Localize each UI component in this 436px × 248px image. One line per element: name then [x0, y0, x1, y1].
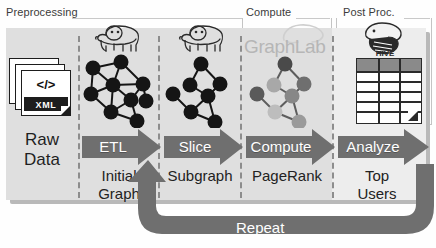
- caption-raw-data-line1: Raw: [6, 130, 78, 149]
- repeat-loop-label: Repeat: [236, 219, 284, 236]
- xml-code-glyph: </>: [22, 77, 70, 92]
- results-table-body: [356, 58, 422, 124]
- graph-subgraph-sparse: [164, 52, 236, 128]
- phase-label-preprocessing: Preprocessing: [6, 6, 78, 18]
- hadoop-elephant-logo-2: [176, 22, 228, 56]
- results-table-rule-2: [357, 91, 421, 93]
- results-table-col-rule-2: [399, 59, 401, 123]
- apache-hive-logo: HIVE: [358, 20, 408, 58]
- xml-doc-front: </> XML: [21, 70, 71, 116]
- phase-label-post-proc: Post Proc.: [343, 6, 395, 18]
- graph-pagerank-shaded: [246, 52, 320, 128]
- pipeline-diagram: Preprocessing Compute Post Proc. </> XML: [0, 0, 436, 248]
- results-table-rule-0: [357, 71, 421, 73]
- results-table-header-row: [357, 59, 421, 71]
- results-table-rule-3: [357, 101, 421, 103]
- phase-rule-preprocessing: [72, 18, 242, 19]
- results-table-fold-corner: [408, 111, 418, 121]
- xml-doc-fold-corner: [61, 106, 70, 115]
- caption-raw-data-line2: Data: [6, 150, 78, 169]
- results-table-col-rule-1: [378, 59, 380, 123]
- hadoop-elephant-logo-1: [92, 22, 144, 56]
- results-table-rule-1: [357, 81, 421, 83]
- svg-text:HIVE: HIVE: [376, 49, 395, 58]
- graph-initial-dense: [80, 52, 156, 128]
- phase-label-compute: Compute: [246, 6, 291, 18]
